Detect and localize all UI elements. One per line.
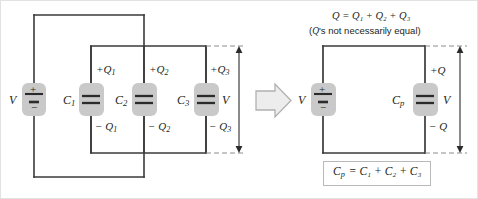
formula-rhs: = C₁ + C₂ + C₃ xyxy=(345,165,422,177)
left-circuit-group xyxy=(22,15,246,177)
plus-q3-subscript: 3 xyxy=(225,68,229,77)
capacitor-symbol-cp xyxy=(413,83,438,116)
right-voltage-dimension-label: V xyxy=(443,94,450,106)
dimension-arrowhead-down-right xyxy=(457,146,464,153)
charge-label-plus-q3: +Q3 xyxy=(210,64,229,77)
minus-q2-subscript: 2 xyxy=(166,125,170,134)
capacitor-label-c1: C1 xyxy=(63,94,75,108)
dimension-arrowhead-up-right xyxy=(457,46,464,53)
minus-q3-subscript: 3 xyxy=(227,125,231,134)
capacitor-symbol-c2 xyxy=(132,83,157,116)
minus-q3-text: − Q xyxy=(209,120,227,132)
cp-subscript: p xyxy=(400,98,404,108)
left-voltage-dimension-label: V xyxy=(222,94,229,106)
c3-subscript: 3 xyxy=(185,98,189,108)
battery-right-minus-sign: − xyxy=(320,102,326,113)
charge-label-minus-q3: − Q3 xyxy=(209,121,231,134)
cp-letter: C xyxy=(392,93,400,107)
plus-q1-subscript: 1 xyxy=(111,68,115,77)
charge-label-minus-q2: − Q2 xyxy=(148,121,170,134)
charge-equality-note: (Q's not necessarily equal) xyxy=(309,26,421,37)
charge-label-plus-q-total: +Q xyxy=(430,65,445,76)
capacitor-label-cp: Cp xyxy=(392,94,404,108)
capacitor-symbol-c3 xyxy=(194,83,219,116)
c3-letter: C xyxy=(177,93,185,107)
capacitor-label-c3: C3 xyxy=(177,94,189,108)
cp-highlight xyxy=(413,83,438,116)
charge-label-minus-q1: − Q1 xyxy=(95,121,117,134)
battery-right-plus-sign: + xyxy=(319,84,325,95)
equivalent-capacitance-formula-box: Cp= C₁ + C₂ + C₃ xyxy=(323,161,431,186)
c3-highlight xyxy=(194,83,219,116)
note-rest: 's not necessarily equal) xyxy=(319,25,421,36)
capacitor-label-c2: C2 xyxy=(115,94,127,108)
formula-lhs: C xyxy=(333,165,341,177)
capacitors-in-parallel-figure: V + − C1 C2 C3 +Q1 +Q2 +Q3 − Q1 − Q2 − Q… xyxy=(0,0,478,199)
charge-label-minus-q-total: − Q xyxy=(429,121,447,132)
battery-plus-sign: + xyxy=(30,84,36,95)
c1-subscript: 1 xyxy=(71,98,75,108)
charge-sum-annotation: Q = Q₁ + Q₂ + Q₃ xyxy=(332,11,410,22)
battery-minus-sign: − xyxy=(31,102,37,113)
c2-letter: C xyxy=(115,93,123,107)
left-source-voltage-label: V xyxy=(9,94,16,106)
plus-q3-text: +Q xyxy=(210,63,225,75)
c1-highlight xyxy=(79,83,104,116)
capacitor-symbol-c1 xyxy=(79,83,104,116)
c1-letter: C xyxy=(63,93,71,107)
minus-q1-text: − Q xyxy=(95,120,113,132)
right-arrow-icon xyxy=(256,84,291,117)
right-source-voltage-label: V xyxy=(298,94,305,106)
plus-q2-text: +Q xyxy=(149,63,164,75)
minus-q2-text: − Q xyxy=(148,120,166,132)
plus-q1-text: +Q xyxy=(96,63,111,75)
right-loop-wires xyxy=(323,46,425,153)
c2-highlight xyxy=(132,83,157,116)
dimension-arrowhead-down xyxy=(236,146,243,153)
plus-q2-subscript: 2 xyxy=(164,68,168,77)
charge-label-plus-q2: +Q2 xyxy=(149,64,168,77)
dimension-arrowhead-up xyxy=(236,46,243,53)
c2-subscript: 2 xyxy=(123,98,127,108)
charge-label-plus-q1: +Q1 xyxy=(96,64,115,77)
minus-q1-subscript: 1 xyxy=(113,125,117,134)
